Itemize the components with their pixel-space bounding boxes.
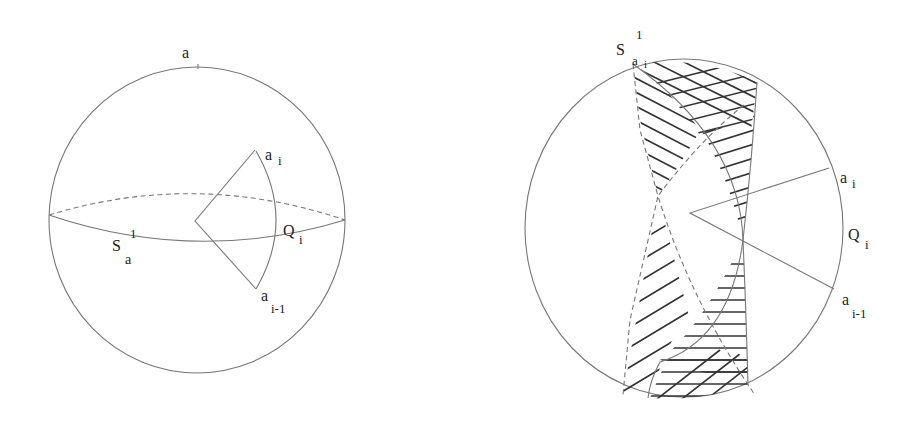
label-a-i-sub: i — [278, 153, 282, 168]
right-boundary-arc — [743, 82, 757, 385]
label-a-i-right: a — [840, 169, 847, 186]
figure-canvas: a a i S 1 a Q i a i-1 — [0, 0, 911, 421]
hatch-upper-left — [620, 70, 720, 220]
label-S-sup: 1 — [130, 226, 137, 241]
hatch-lower-right — [650, 264, 760, 372]
label-S-sub: a — [125, 252, 132, 267]
equator-back-dashed — [49, 194, 345, 220]
label-a-i-1-right-sub: i-1 — [852, 306, 866, 321]
hatch-lower-left — [600, 205, 700, 405]
label-S-right-sup: 1 — [636, 27, 643, 42]
sector-radii-right — [690, 168, 834, 289]
label-a-i-1-right: a — [842, 291, 849, 308]
label-S-right-subsub: i — [644, 58, 647, 70]
label-a-i-1: a — [261, 287, 268, 304]
right-sphere-diagram — [525, 25, 843, 420]
label-S-right: S — [616, 41, 625, 58]
label-top-a: a — [182, 44, 189, 61]
label-a-i-1-sub: i-1 — [271, 301, 285, 316]
label-Q-right: Q — [848, 226, 860, 243]
left-sphere-outline — [49, 67, 345, 373]
label-Q-right-sub: i — [865, 237, 869, 252]
left-labels: a a i S 1 a Q i a i-1 — [112, 44, 303, 316]
label-a-i: a — [265, 146, 272, 163]
left-sphere-diagram — [49, 64, 345, 373]
sector-radii — [195, 150, 256, 289]
right-sphere-outline — [525, 59, 843, 397]
label-a-i-right-sub: i — [852, 176, 856, 191]
label-Q-sub: i — [299, 232, 303, 247]
sector-arc — [256, 151, 276, 289]
label-Q: Q — [283, 222, 295, 239]
hatch-bottom-cross — [630, 350, 795, 420]
dashed-back-left — [623, 64, 658, 395]
label-S: S — [112, 237, 121, 254]
label-S-right-sub: a — [632, 53, 638, 68]
